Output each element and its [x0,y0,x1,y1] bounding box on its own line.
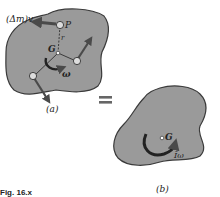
center-g-b-label: G [165,132,173,142]
particle-right-icon [73,57,80,64]
center-g-icon [56,51,60,55]
omega-label: ω [62,69,71,79]
panel-a-caption: (a) [46,104,59,114]
momentum-label: (Δm)v [6,14,33,24]
panel-b-caption: (b) [156,184,169,194]
point-p-label: P [64,20,72,30]
center-g-label: G [48,44,56,54]
equals-sign [99,96,112,104]
rigid-body-momentum-diagram: (Δm)v P r G ω (a) G Īω (b) [0,0,220,197]
particle-left-icon [29,72,36,79]
figure-caption: Fig. 16.x [0,188,32,197]
center-g-b-icon [160,136,164,140]
angular-momentum-label: Īω [173,151,184,160]
particle-p-icon [56,21,63,28]
momentum-vector-arrow [36,22,56,24]
